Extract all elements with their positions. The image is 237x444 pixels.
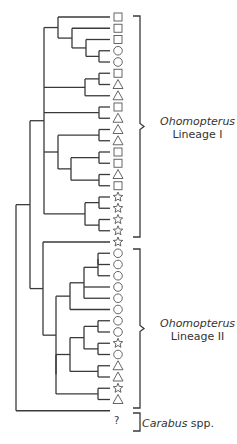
triangle-icon <box>113 113 123 122</box>
triangle-icon <box>113 91 123 100</box>
circle-icon <box>114 294 123 303</box>
star-icon <box>113 237 123 246</box>
unknown-tip-label: ? <box>114 415 119 426</box>
lineage-1-label: Ohomopterus Lineage I <box>160 115 235 141</box>
outgroup-genus: Carabus <box>142 417 187 430</box>
square-icon <box>114 24 122 32</box>
circle-icon <box>114 350 123 359</box>
square-icon <box>114 69 122 77</box>
square-icon <box>114 36 122 44</box>
triangle-icon <box>113 80 123 89</box>
lineage-2-name: Lineage II <box>171 330 224 343</box>
star-icon <box>113 215 123 224</box>
circle-icon <box>114 305 123 314</box>
triangle-icon <box>113 372 123 381</box>
lineage-2-bracket <box>133 249 144 408</box>
square-icon <box>114 159 122 167</box>
star-icon <box>113 338 123 347</box>
circle-icon <box>114 46 123 55</box>
triangle-icon <box>113 125 123 134</box>
outgroup-suffix: spp. <box>187 417 214 430</box>
outgroup-label: Carabus spp. <box>142 417 214 430</box>
star-icon <box>113 203 123 212</box>
circle-icon <box>114 249 123 258</box>
star-icon <box>113 226 123 235</box>
outgroup-bracket <box>133 413 140 431</box>
lineage-2-label: Ohomopterus Lineage II <box>160 317 235 343</box>
star-icon <box>113 383 123 392</box>
lineage-1-genus: Ohomopterus <box>160 115 235 128</box>
lineage-1-name: Lineage I <box>172 128 222 141</box>
square-icon <box>114 148 122 156</box>
phylogenetic-tree <box>0 0 237 444</box>
circle-icon <box>114 328 123 337</box>
lineage-1-bracket <box>133 16 144 237</box>
triangle-icon <box>113 170 123 179</box>
circle-icon <box>114 260 123 269</box>
square-icon <box>114 182 122 190</box>
triangle-icon <box>113 395 123 404</box>
star-icon <box>113 192 123 201</box>
lineage-2-genus: Ohomopterus <box>160 317 235 330</box>
circle-icon <box>114 316 123 325</box>
triangle-icon <box>113 136 123 145</box>
square-icon <box>114 103 122 111</box>
triangle-icon <box>113 361 123 370</box>
circle-icon <box>114 58 123 67</box>
circle-icon <box>114 283 123 292</box>
square-icon <box>114 13 122 21</box>
circle-icon <box>114 271 123 280</box>
